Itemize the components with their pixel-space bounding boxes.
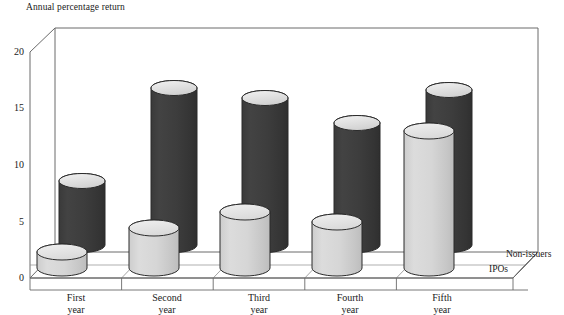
y-tick-10: 10 — [2, 159, 24, 170]
plot-depth-edges — [30, 28, 55, 278]
bar-front-year-1 — [37, 244, 87, 276]
bar-back-year-1 — [59, 174, 105, 253]
x-tick-first-year: First year — [41, 292, 111, 315]
bar-chart-3d — [0, 0, 564, 315]
x-tick-fourth-year: Fourth year — [315, 292, 385, 315]
chart-title: Annual percentage return — [26, 2, 125, 12]
bar-front-year-3 — [220, 204, 270, 276]
legend-label-non-issuers: Non-issuers — [506, 249, 551, 259]
bar-front-year-4 — [312, 214, 362, 276]
bar-front-year-2 — [129, 220, 179, 276]
x-tick-third-year-line1: Third — [224, 292, 294, 304]
x-tick-fifth-year: Fifth year — [407, 292, 477, 315]
y-tick-15: 15 — [2, 102, 24, 113]
bar-front-year-5 — [404, 123, 454, 276]
x-tick-second-year-line2: year — [132, 304, 202, 315]
x-tick-third-year-line2: year — [224, 304, 294, 315]
legend-label-ipos: IPOs — [489, 264, 508, 274]
x-tick-fifth-year-line2: year — [407, 304, 477, 315]
x-tick-third-year: Third year — [224, 292, 294, 315]
x-tick-second-year: Second year — [132, 292, 202, 315]
y-tick-0: 0 — [2, 272, 24, 283]
x-tick-first-year-line2: year — [41, 304, 111, 315]
x-tick-fifth-year-line1: Fifth — [407, 292, 477, 304]
y-tick-5: 5 — [2, 216, 24, 227]
x-tick-second-year-line1: Second — [132, 292, 202, 304]
chart-container: Annual percentage return 20 15 10 5 0 Fi… — [0, 0, 564, 315]
x-tick-fourth-year-line1: Fourth — [315, 292, 385, 304]
plot-floor — [30, 252, 538, 278]
x-tick-first-year-line1: First — [41, 292, 111, 304]
y-tick-20: 20 — [2, 46, 24, 57]
x-tick-fourth-year-line2: year — [315, 304, 385, 315]
